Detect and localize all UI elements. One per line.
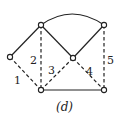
edge-label-4: 4 (86, 65, 93, 78)
edge-left-topleft (10, 25, 41, 57)
node-bottom-right (101, 87, 106, 92)
edge-topleft-topright-arc (41, 14, 104, 25)
edge-topleft-center (41, 25, 73, 58)
node-top-left (38, 22, 43, 27)
graph-diagram: 1 2 3 4 5 (d) (0, 0, 117, 119)
edge-label-1: 1 (14, 74, 21, 87)
edge-3-dashed (41, 58, 73, 90)
edge-label-3: 3 (48, 64, 55, 77)
node-top-right (101, 22, 106, 27)
figure-caption: (d) (56, 100, 73, 114)
edge-label-2: 2 (30, 54, 37, 67)
edge-center-topright (73, 25, 104, 58)
edge-label-5: 5 (107, 54, 114, 67)
node-center (70, 55, 75, 60)
node-left (7, 54, 12, 59)
node-bottom-left (38, 87, 43, 92)
